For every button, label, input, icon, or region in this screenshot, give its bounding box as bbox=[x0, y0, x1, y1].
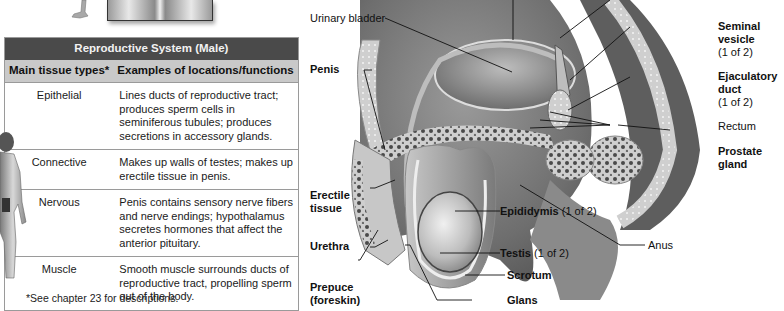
label-seminal-vesicle: Seminal vesicle (1 of 2) bbox=[718, 20, 760, 59]
tissue-description: Makes up walls of testes; makes up erect… bbox=[113, 150, 298, 190]
label-ejaculatory-duct: Ejaculatory duct (1 of 2) bbox=[718, 70, 777, 109]
label-testis-count: (1 of 2) bbox=[534, 247, 569, 259]
label-epididymis-name: Epididymis bbox=[500, 205, 559, 217]
tissue-table: Reproductive System (Male) Main tissue t… bbox=[4, 37, 299, 311]
label-seminal-line1: Seminal bbox=[718, 20, 760, 33]
table-footnote: *See chapter 23 for descriptions. bbox=[26, 292, 178, 304]
label-ejaculatory-count: (1 of 2) bbox=[718, 96, 777, 109]
label-urethra: Urethra bbox=[310, 240, 349, 253]
label-rectum: Rectum bbox=[718, 120, 756, 133]
label-seminal-count: (1 of 2) bbox=[718, 46, 760, 59]
table-title: Reproductive System (Male) bbox=[5, 38, 299, 61]
leg-figure-illustration bbox=[68, 0, 94, 22]
male-body-figure-illustration bbox=[0, 132, 36, 280]
label-penis: Penis bbox=[310, 63, 339, 76]
table-row: Connective Makes up walls of testes; mak… bbox=[5, 150, 299, 190]
label-prostate-line2: gland bbox=[718, 158, 762, 171]
body-region-inset bbox=[107, 0, 213, 21]
label-erectile-line1: Erectile bbox=[310, 189, 350, 202]
label-epididymis: Epididymis (1 of 2) bbox=[500, 205, 597, 218]
label-ejaculatory-line2: duct bbox=[718, 83, 777, 96]
tissue-description: Penis contains sensory nerve fibers and … bbox=[113, 190, 298, 257]
label-prepuce-line2: (foreskin) bbox=[310, 294, 360, 307]
label-prepuce-line1: Prepuce bbox=[310, 281, 360, 294]
label-ejaculatory-line1: Ejaculatory bbox=[718, 70, 777, 83]
label-prostate-gland: Prostate gland bbox=[718, 145, 762, 171]
anatomy-illustration bbox=[300, 0, 784, 308]
label-prostate-line1: Prostate bbox=[718, 145, 762, 158]
label-anus: Anus bbox=[648, 239, 673, 252]
label-testis-name: Testis bbox=[500, 247, 531, 259]
label-prepuce: Prepuce (foreskin) bbox=[310, 281, 360, 307]
column-header-tissue-type: Main tissue types* bbox=[5, 60, 114, 83]
label-scrotum: Scrotum bbox=[507, 269, 552, 282]
label-urinary-bladder: Urinary bladder bbox=[310, 12, 385, 25]
column-header-locations: Examples of locations/functions bbox=[113, 60, 298, 83]
label-seminal-line2: vesicle bbox=[718, 33, 760, 46]
label-epididymis-count: (1 of 2) bbox=[562, 205, 597, 217]
label-erectile-tissue: Erectile tissue bbox=[310, 189, 350, 215]
anatomy-diagram: Urinary bladder Penis Erectile tissue Ur… bbox=[300, 0, 784, 308]
label-erectile-line2: tissue bbox=[310, 202, 350, 215]
tissue-description: Lines ducts of reproductive tract; produ… bbox=[113, 83, 298, 150]
label-glans: Glans bbox=[507, 294, 538, 307]
label-testis: Testis (1 of 2) bbox=[500, 247, 569, 260]
table-row: Nervous Penis contains sensory nerve fib… bbox=[5, 190, 299, 257]
table-row: Epithelial Lines ducts of reproductive t… bbox=[5, 83, 299, 150]
